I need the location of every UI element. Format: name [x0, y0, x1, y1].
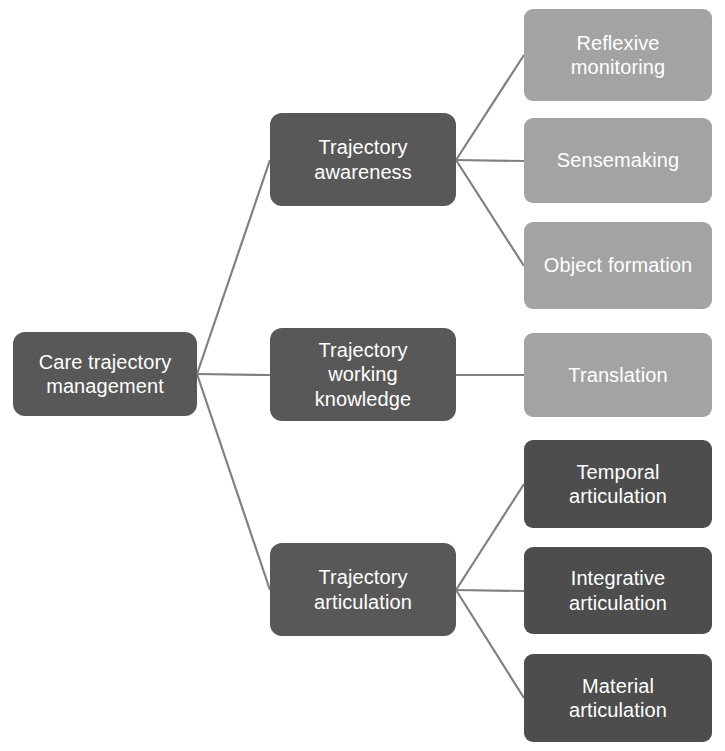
node-label-reflexive-monitoring: Reflexive monitoring	[571, 31, 665, 80]
node-integrative-articulation[interactable]: Integrative articulation	[524, 547, 712, 634]
node-sensemaking[interactable]: Sensemaking	[524, 118, 712, 203]
node-label-care-trajectory-management: Care trajectory management	[39, 350, 172, 399]
node-temporal-articulation[interactable]: Temporal articulation	[524, 440, 712, 528]
connector-root-to-trajectory-articulation	[197, 374, 270, 590]
node-trajectory-articulation[interactable]: Trajectory articulation	[270, 543, 456, 636]
node-label-temporal-articulation: Temporal articulation	[569, 460, 667, 509]
node-label-trajectory-working-knowledge: Trajectory working knowledge	[315, 338, 412, 411]
node-translation[interactable]: Translation	[524, 333, 712, 417]
node-trajectory-awareness[interactable]: Trajectory awareness	[270, 113, 456, 206]
connector-awareness-to-object-formation	[456, 160, 524, 266]
connector-articulation-to-material-articulation	[456, 590, 524, 698]
care-trajectory-management-diagram: Care trajectory managementTrajectory awa…	[0, 0, 725, 751]
connector-awareness-to-reflexive-monitoring	[456, 55, 524, 160]
node-object-formation[interactable]: Object formation	[524, 222, 712, 309]
node-trajectory-working-knowledge[interactable]: Trajectory working knowledge	[270, 328, 456, 421]
connector-root-to-trajectory-working-knowledge	[197, 374, 270, 375]
node-label-material-articulation: Material articulation	[569, 674, 667, 723]
node-care-trajectory-management[interactable]: Care trajectory management	[13, 332, 197, 416]
node-material-articulation[interactable]: Material articulation	[524, 654, 712, 742]
node-label-sensemaking: Sensemaking	[557, 148, 679, 172]
connector-awareness-to-sensemaking	[456, 160, 524, 161]
node-label-integrative-articulation: Integrative articulation	[569, 566, 667, 615]
node-label-object-formation: Object formation	[544, 253, 692, 277]
connector-articulation-to-integrative-articulation	[456, 590, 524, 591]
connector-root-to-trajectory-awareness	[197, 160, 270, 374]
node-label-translation: Translation	[568, 363, 667, 387]
node-label-trajectory-awareness: Trajectory awareness	[314, 135, 412, 184]
node-reflexive-monitoring[interactable]: Reflexive monitoring	[524, 9, 712, 101]
node-label-trajectory-articulation: Trajectory articulation	[314, 565, 412, 614]
connector-articulation-to-temporal-articulation	[456, 484, 524, 590]
